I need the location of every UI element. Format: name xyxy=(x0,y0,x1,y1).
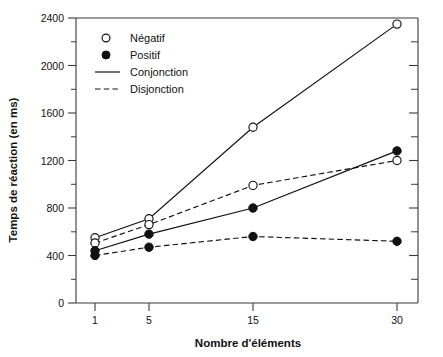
data-point xyxy=(393,147,401,155)
series-line xyxy=(95,151,397,251)
data-point xyxy=(249,204,257,212)
legend-item-negatif: Négatif xyxy=(102,32,166,44)
y-tick-label: 0 xyxy=(58,297,64,309)
x-axis-ticks xyxy=(95,303,397,311)
data-point xyxy=(145,221,153,229)
legend-label: Conjonction xyxy=(130,66,188,78)
series-line xyxy=(95,237,397,256)
legend-label: Positif xyxy=(130,49,161,61)
reaction-time-line-chart: 2400 2000 1600 1200 800 400 0 1 5 15 30 … xyxy=(0,0,443,357)
data-point xyxy=(249,123,257,131)
y-tick-label: 1200 xyxy=(41,155,65,167)
x-axis-title: Nombre d'éléments xyxy=(195,337,301,349)
y-tick-labels: 2400 2000 1600 1200 800 400 0 xyxy=(41,12,65,309)
y-tick-label: 2000 xyxy=(41,60,65,72)
series-line xyxy=(95,161,397,244)
y-axis-title: Temps de réaction (en ms) xyxy=(7,97,19,242)
data-point xyxy=(393,156,401,164)
x-tick-label: 5 xyxy=(146,314,152,326)
data-point xyxy=(393,20,401,28)
series-positif-conjonction xyxy=(91,147,401,255)
open-circle-icon xyxy=(102,34,110,42)
data-point xyxy=(145,243,153,251)
data-point xyxy=(393,237,401,245)
legend-label: Négatif xyxy=(130,32,166,44)
y-tick-label: 2400 xyxy=(41,12,65,24)
data-point xyxy=(91,251,99,259)
x-tick-label: 15 xyxy=(247,314,259,326)
chart-legend: Négatif Positif Conjonction Disjonction xyxy=(95,32,188,95)
x-tick-label: 30 xyxy=(391,314,403,326)
y-tick-label: 800 xyxy=(46,202,64,214)
y-tick-label: 400 xyxy=(46,250,64,262)
series-negatif-disjonction xyxy=(91,156,401,247)
data-point xyxy=(249,181,257,189)
y-axis-ticks-right xyxy=(409,42,418,279)
series-positif-disjonction xyxy=(91,232,401,259)
legend-item-conjonction: Conjonction xyxy=(95,66,188,78)
legend-label: Disjonction xyxy=(130,83,184,95)
x-tick-label: 1 xyxy=(92,314,98,326)
plot-frame xyxy=(76,18,418,303)
data-point xyxy=(249,232,257,240)
filled-circle-icon xyxy=(102,51,110,59)
y-axis-ticks-left xyxy=(68,18,76,303)
x-tick-labels: 1 5 15 30 xyxy=(92,314,403,326)
data-point xyxy=(145,230,153,238)
data-point xyxy=(91,239,99,247)
legend-item-positif: Positif xyxy=(102,49,161,61)
y-tick-label: 1600 xyxy=(41,107,65,119)
chart-figure: 2400 2000 1600 1200 800 400 0 1 5 15 30 … xyxy=(0,0,443,357)
legend-item-disjonction: Disjonction xyxy=(95,83,184,95)
